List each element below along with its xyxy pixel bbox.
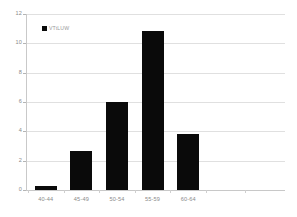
bar — [106, 102, 128, 190]
y-axis: 121086420 — [0, 0, 22, 217]
x-axis-tick-label: 60-64 — [170, 196, 206, 202]
x-axis-tick-mark — [64, 190, 65, 193]
x-axis-tick-label: 45-49 — [64, 196, 100, 202]
y-axis-tick-label: 0 — [0, 187, 22, 193]
x-axis-tick-mark — [99, 190, 100, 193]
y-axis-tick-label: 10 — [0, 40, 22, 46]
x-axis-tick-label: 50-54 — [99, 196, 135, 202]
y-axis-tick-mark — [23, 73, 26, 74]
chart-legend: VTtLUW — [42, 26, 69, 31]
y-axis-tick-label: 2 — [0, 158, 22, 164]
x-axis-tick-label: 40-44 — [28, 196, 64, 202]
y-axis-tick-mark — [23, 14, 26, 15]
bar — [70, 151, 92, 190]
y-axis-tick-label: 6 — [0, 99, 22, 105]
y-axis-tick-mark — [23, 131, 26, 132]
x-axis-tick-mark — [245, 190, 246, 193]
y-axis-tick-mark — [23, 43, 26, 44]
x-axis-tick-mark — [170, 190, 171, 193]
legend-swatch-icon — [42, 26, 47, 31]
y-axis-tick-mark — [23, 102, 26, 103]
legend-label: VTtLUW — [49, 26, 69, 31]
x-axis-tick-label: 55-59 — [135, 196, 171, 202]
bar — [35, 186, 57, 190]
y-axis-line — [26, 14, 27, 191]
y-axis-tick-label: 8 — [0, 70, 22, 76]
bar-chart: 121086420 40-4445-4950-5455-5960-64 VTtL… — [0, 0, 297, 217]
x-axis-tick-mark — [206, 190, 207, 193]
y-axis-tick-label: 12 — [0, 11, 22, 17]
y-axis-tick-mark — [23, 190, 26, 191]
x-axis-tick-mark — [28, 190, 29, 193]
x-axis-tick-mark — [135, 190, 136, 193]
bar — [177, 134, 199, 190]
gridline — [26, 14, 285, 15]
y-axis-tick-label: 4 — [0, 128, 22, 134]
y-axis-tick-mark — [23, 161, 26, 162]
bar — [142, 31, 164, 190]
